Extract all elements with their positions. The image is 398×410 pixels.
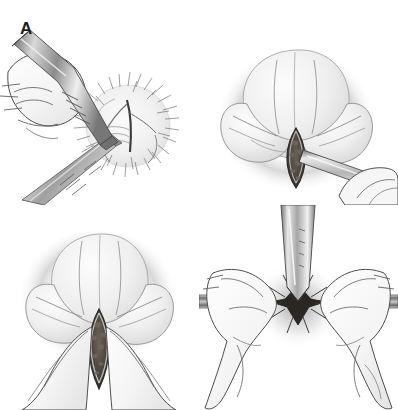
panel-d-artwork — [199, 205, 398, 410]
panel-b-artwork — [199, 0, 398, 205]
figure-root: A — [0, 0, 398, 410]
panel-c: C — [0, 205, 199, 410]
panel-label-a: A — [20, 20, 32, 37]
panel-d: D — [199, 205, 398, 410]
panel-b: B — [199, 0, 398, 205]
hand-left-d — [203, 269, 276, 408]
panel-a: A — [0, 0, 199, 205]
hand-right-d — [321, 269, 394, 408]
panel-c-artwork — [0, 205, 199, 410]
